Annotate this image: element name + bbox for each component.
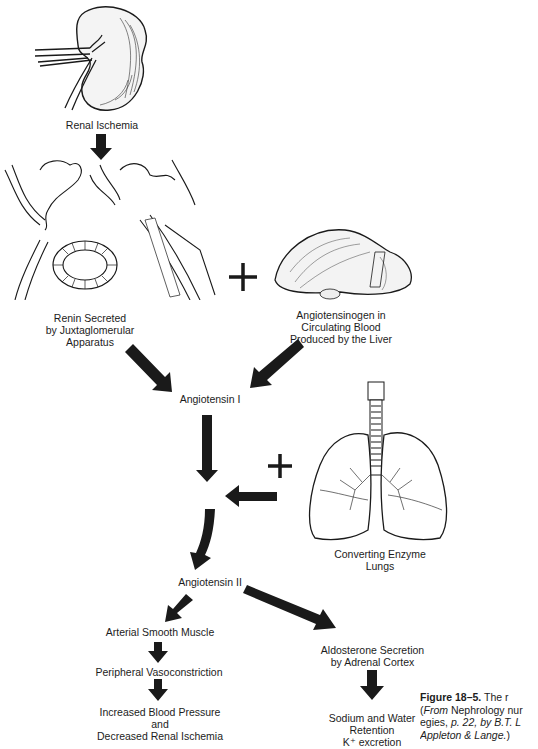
arrow-layer — [0, 0, 538, 749]
arrow-muscle-to-vasoconstriction — [148, 642, 168, 663]
plus-sign-lungs — [268, 454, 292, 478]
arrow-vasoconstriction-to-bp — [148, 679, 168, 701]
label-renin-line2: by Juxtaglomerular — [40, 324, 140, 336]
label-angiotensin-2: Angiotensin II — [170, 576, 250, 588]
label-increased-bp-line1: Increased Blood Pressure — [90, 706, 230, 718]
arrow-angiotensin2-to-muscle — [165, 594, 193, 622]
label-sodium-line1: Sodium and Water — [322, 712, 422, 724]
arrow-angiotensin2-to-aldosterone — [243, 585, 336, 630]
caption-publisher: Appleton & Lange. — [420, 729, 506, 741]
label-sodium-line2: Retention — [322, 724, 422, 736]
label-angiotensinogen-line1: Angiotensinogen in — [285, 309, 397, 321]
label-converting-line2: Lungs — [325, 560, 435, 572]
caption-line4: Appleton & Lange.) — [420, 729, 538, 742]
label-arterial-smooth-muscle: Arterial Smooth Muscle — [100, 626, 220, 638]
caption-from: From — [424, 704, 449, 716]
label-renin-line1: Renin Secreted — [40, 312, 140, 324]
arrow-lungs-to-center — [225, 485, 277, 507]
plus-sign-liver — [229, 263, 257, 291]
caption-figure-label: Figure 18–5. — [420, 691, 481, 703]
arrow-renin-to-angiotensin1 — [125, 344, 172, 392]
label-converting-enzyme: Converting Enzyme Lungs — [325, 548, 435, 572]
label-renin-line3: Apparatus — [40, 336, 140, 348]
arrow-liver-to-angiotensin1 — [250, 339, 304, 388]
arrow-renal-to-renin — [90, 134, 112, 160]
arrow-to-angiotensin2 — [190, 509, 215, 570]
label-peripheral-vasoconstriction: Peripheral Vasoconstriction — [90, 666, 228, 678]
label-angiotensin-1: Angiotensin I — [170, 393, 250, 405]
caption-line3: egies, p. 22, by B.T. L — [420, 716, 538, 729]
caption-line2: (From Nephrology nur — [420, 704, 538, 717]
caption-line3-a: egies, — [420, 716, 451, 728]
label-angiotensinogen-line2: Circulating Blood — [285, 321, 397, 333]
arrow-angiotensin1-down — [196, 415, 218, 482]
arrow-aldosterone-to-sodium — [360, 670, 384, 700]
label-sodium-line3: K⁺ excretion — [322, 736, 422, 748]
figure-caption: Figure 18–5. The r (From Nephrology nur … — [420, 691, 538, 741]
label-increased-bp-line3: Decreased Renal Ischemia — [90, 730, 230, 742]
label-increased-bp-line2: and — [90, 718, 230, 730]
label-renin-secreted: Renin Secreted by Juxtaglomerular Appara… — [40, 312, 140, 348]
label-angiotensinogen-line3: Produced by the Liver — [285, 333, 397, 345]
caption-close-paren: ) — [506, 729, 510, 741]
label-aldosterone: Aldosterone Secretion by Adrenal Cortex — [315, 644, 430, 668]
label-aldosterone-line2: by Adrenal Cortex — [315, 656, 430, 668]
label-aldosterone-line1: Aldosterone Secretion — [315, 644, 430, 656]
label-increased-bp: Increased Blood Pressure and Decreased R… — [90, 706, 230, 742]
label-angiotensinogen: Angiotensinogen in Circulating Blood Pro… — [285, 309, 397, 345]
label-renal-ischemia: Renal Ischemia — [60, 119, 144, 131]
label-converting-line1: Converting Enzyme — [325, 548, 435, 560]
caption-line1: Figure 18–5. The r — [420, 691, 538, 704]
caption-line2-rest: Nephrology nur — [448, 704, 523, 716]
caption-line3-b: p. 22, by B.T. L — [451, 716, 521, 728]
label-sodium-water: Sodium and Water Retention K⁺ excretion — [322, 712, 422, 748]
caption-line1-rest: The r — [481, 691, 508, 703]
